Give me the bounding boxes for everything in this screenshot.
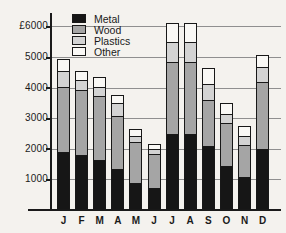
x-tick-label-5: J	[145, 215, 164, 226]
wood-segment	[256, 82, 269, 151]
x-tick-label-1: F	[72, 215, 91, 226]
wood-segment	[184, 62, 197, 135]
bar-10-N	[238, 124, 251, 210]
y-tick-label-4000: 4000	[4, 82, 48, 93]
legend-swatch-metal	[72, 14, 86, 23]
x-tick-label-10: N	[235, 215, 254, 226]
metal-segment	[75, 155, 88, 210]
other-segment	[220, 103, 233, 115]
metal-segment	[220, 166, 233, 210]
bar-2-M	[93, 75, 106, 210]
other-segment	[111, 95, 124, 104]
y-tick-label-2000: 2000	[4, 143, 48, 154]
bar-6-J	[166, 21, 179, 210]
metal-segment	[57, 152, 70, 210]
other-segment	[256, 55, 269, 67]
other-segment	[93, 77, 106, 88]
x-tick-label-7: A	[181, 215, 200, 226]
wood-segment	[111, 115, 124, 170]
x-tick-label-3: A	[108, 215, 127, 226]
wood-segment	[75, 89, 88, 156]
plastics-segment	[238, 135, 251, 146]
x-tick-label-11: D	[253, 215, 272, 226]
metal-segment	[166, 134, 179, 211]
legend-label-other: Other	[94, 46, 120, 58]
wood-segment	[166, 62, 179, 135]
other-segment	[202, 68, 215, 85]
bar-3-A	[111, 93, 124, 210]
y-tick-label-3000: 3000	[4, 112, 48, 123]
y-axis-line	[50, 13, 52, 211]
other-segment	[184, 23, 197, 43]
y-tick-label-1000: 1000	[4, 173, 48, 184]
other-segment	[57, 59, 70, 73]
other-segment	[148, 144, 161, 150]
wood-segment	[129, 141, 142, 184]
bar-9-O	[220, 101, 233, 210]
metal-segment	[256, 149, 269, 210]
y-tick-label-5000: 5000	[4, 51, 48, 62]
plastics-segment	[184, 42, 197, 63]
bar-5-J	[148, 142, 161, 210]
other-segment	[238, 126, 251, 137]
metal-segment	[111, 169, 124, 210]
metal-segment	[202, 146, 215, 210]
plastics-segment	[256, 66, 269, 83]
plastics-segment	[220, 114, 233, 125]
bar-4-M	[129, 127, 142, 210]
metal-segment	[148, 187, 161, 210]
x-tick-label-6: J	[163, 215, 182, 226]
x-tick-label-9: O	[217, 215, 236, 226]
x-tick-label-0: J	[54, 215, 73, 226]
bar-8-S	[202, 66, 215, 210]
wood-segment	[238, 144, 251, 178]
metal-segment	[93, 160, 106, 210]
bar-0-J	[57, 57, 70, 210]
legend-swatch-plastics	[72, 36, 86, 45]
other-segment	[129, 129, 142, 137]
y-tick-label-6000: £6000	[4, 20, 48, 31]
legend-swatch-other	[72, 47, 86, 56]
plastics-segment	[93, 86, 106, 97]
x-tick-label-4: M	[126, 215, 145, 226]
x-tick-label-2: M	[90, 215, 109, 226]
legend-swatch-wood	[72, 25, 86, 34]
wood-segment	[202, 100, 215, 147]
metal-segment	[238, 176, 251, 210]
bar-1-F	[75, 69, 88, 210]
wood-segment	[220, 123, 233, 167]
wood-segment	[148, 153, 161, 188]
other-segment	[166, 23, 179, 43]
other-segment	[75, 71, 88, 82]
plastics-segment	[202, 83, 215, 101]
plastics-segment	[166, 42, 179, 63]
bar-7-A	[184, 21, 197, 210]
plastics-segment	[75, 80, 88, 91]
stacked-bar-chart: 10002000300040005000£6000 JFMAMJJASOND M…	[0, 0, 286, 233]
bar-11-D	[256, 53, 269, 210]
metal-segment	[184, 134, 197, 211]
x-tick-label-8: S	[199, 215, 218, 226]
metal-segment	[129, 182, 142, 210]
wood-segment	[57, 86, 70, 153]
plastics-segment	[57, 71, 70, 88]
plastics-segment	[111, 103, 124, 117]
wood-segment	[93, 95, 106, 161]
